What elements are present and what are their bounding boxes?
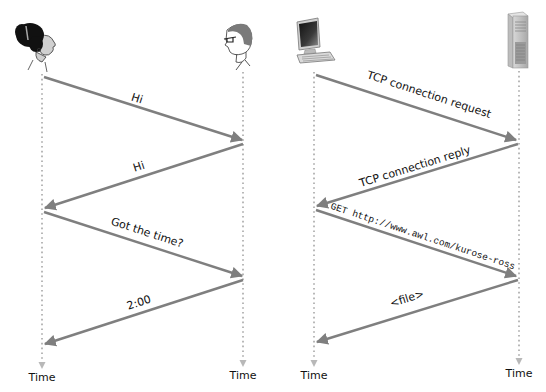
message-arrow-tcp-reply: TCP connection reply [317, 143, 518, 206]
message-arrow-file: <file> [317, 280, 518, 342]
message-label: Hi [132, 159, 147, 175]
man-with-glasses-icon [224, 24, 252, 70]
time-label-woman: Time [29, 371, 56, 384]
timeline-client [311, 72, 318, 367]
time-label-client: Time [301, 369, 328, 382]
message-arrow-hi-request: Hi [44, 77, 242, 140]
timeline-man [240, 72, 247, 367]
desktop-computer-icon [297, 18, 335, 63]
message-arrow-hi-reply: Hi [45, 144, 243, 208]
message-label: TCP connection reply [357, 143, 473, 190]
protocol-comparison-diagram: Hi Hi Got the time? 2:00 TCP connection … [0, 0, 546, 392]
woman-head-icon [15, 23, 55, 72]
message-label: TCP connection request [364, 68, 493, 121]
message-arrow-2-00: 2:00 [45, 280, 243, 344]
message-arrow-got-the-time: Got the time? [44, 212, 242, 276]
message-arrow-http-get: GET http://www.awl.com/kurose-ross [316, 201, 517, 276]
timeline-server [516, 71, 523, 365]
time-label-server: Time [506, 367, 533, 380]
message-label: <file> [388, 287, 425, 310]
time-label-man: Time [230, 369, 257, 382]
server-tower-icon [508, 12, 528, 68]
timeline-woman [39, 74, 46, 369]
message-arrow-tcp-request: TCP connection request [316, 68, 516, 140]
message-label: GET http://www.awl.com/kurose-ross [329, 201, 516, 272]
